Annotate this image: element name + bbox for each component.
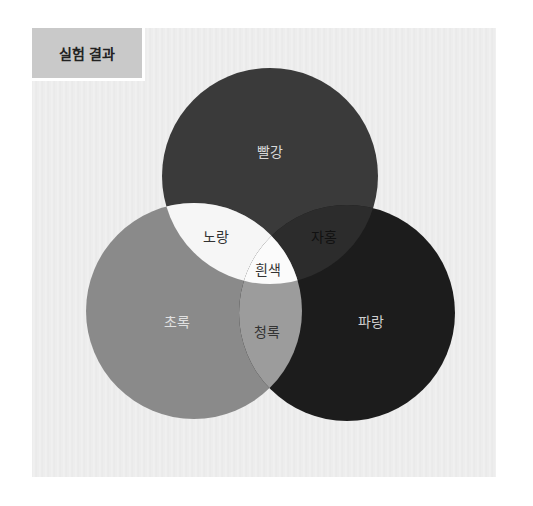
label-cyan: 청록: [254, 324, 280, 340]
label-green: 초록: [164, 314, 190, 330]
label-red: 빨강: [257, 144, 283, 160]
label-blue: 파랑: [358, 314, 384, 330]
venn-diagram: 빨강 노랑 자홍 흰색 초록 청록 파랑: [0, 0, 533, 506]
label-magenta: 자홍: [311, 229, 337, 245]
label-yellow: 노랑: [203, 229, 229, 245]
label-white: 흰색: [255, 262, 281, 278]
